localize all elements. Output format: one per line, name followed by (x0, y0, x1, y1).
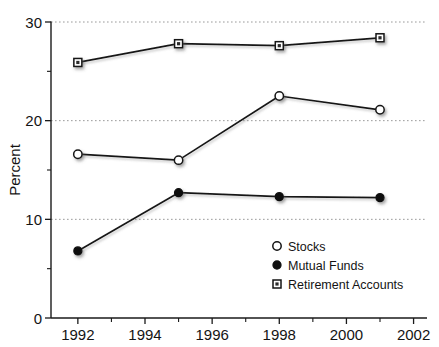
series-stocks (74, 92, 385, 165)
x-tick-label-1998: 1998 (263, 326, 296, 343)
series-line (78, 96, 380, 160)
x-tick-label-2002: 2002 (397, 326, 430, 343)
data-point-1998 (275, 193, 283, 201)
series-mutual-funds (74, 189, 384, 255)
x-tick-label-1992: 1992 (61, 326, 94, 343)
data-point-1992 (74, 150, 82, 158)
y-tick-label-0: 0 (34, 310, 42, 327)
series-layer (74, 34, 385, 255)
line-chart: 0102030 199219941996199820002002 Percent… (0, 0, 439, 347)
data-point-1992-center (76, 61, 79, 64)
legend-item-stocks: Stocks (273, 240, 326, 254)
data-point-1992 (74, 247, 82, 255)
legend-marker-open-square-center (275, 282, 278, 285)
legend-item-retirement-accounts: Retirement Accounts (273, 278, 403, 292)
series-line (78, 193, 380, 251)
x-tick-label-1996: 1996 (195, 326, 228, 343)
data-point-2001-center (378, 36, 381, 39)
x-tick-label-2000: 2000 (330, 326, 363, 343)
y-tick-label-30: 30 (25, 14, 42, 31)
data-point-1995-center (177, 42, 180, 45)
data-point-2001 (376, 194, 384, 202)
data-point-2001 (376, 106, 384, 114)
data-point-1998 (275, 92, 283, 100)
legend-marker-filled-circle (273, 261, 281, 269)
data-point-1995 (175, 189, 183, 197)
series-line (78, 38, 380, 63)
legend-label: Retirement Accounts (288, 278, 403, 292)
y-axis: 0102030 (25, 14, 51, 327)
legend-marker-open-circle (273, 242, 281, 250)
data-point-1998-center (278, 44, 281, 47)
legend-item-mutual-funds: Mutual Funds (273, 259, 364, 273)
data-point-1995 (174, 156, 182, 164)
x-tick-label-1994: 1994 (128, 326, 161, 343)
y-axis-label: Percent (6, 143, 23, 196)
series-retirement-accounts (74, 34, 384, 67)
legend-label: Mutual Funds (288, 259, 364, 273)
y-axis-title: Percent (6, 143, 23, 196)
y-tick-label-20: 20 (25, 112, 42, 129)
y-tick-label-10: 10 (25, 211, 42, 228)
chart-canvas: 0102030 199219941996199820002002 Percent… (0, 0, 439, 347)
legend-label: Stocks (288, 240, 326, 254)
chart-legend: StocksMutual FundsRetirement Accounts (273, 240, 404, 292)
x-axis: 199219941996199820002002 (51, 318, 430, 343)
